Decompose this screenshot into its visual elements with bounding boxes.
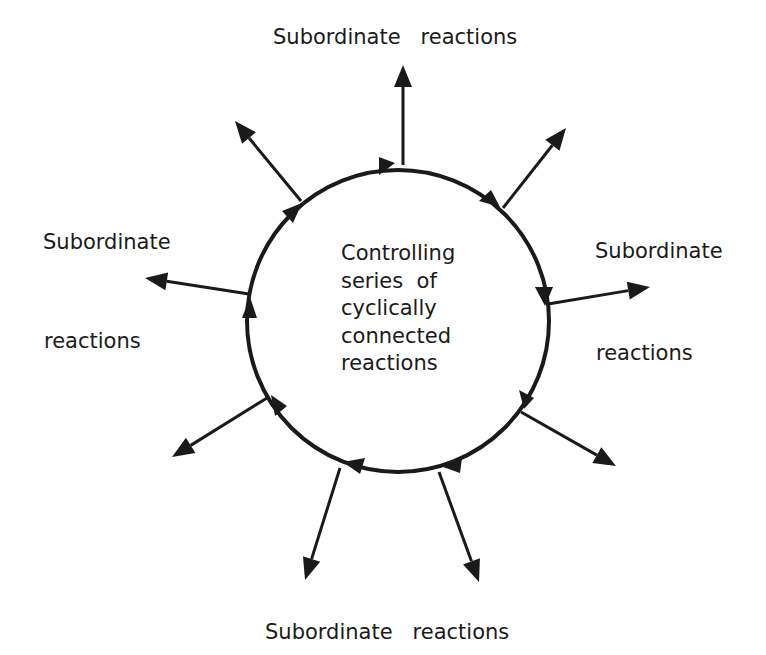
arrowhead-icon bbox=[592, 447, 616, 466]
spoke-lower-left bbox=[191, 398, 267, 445]
cycle-arrowhead-icon bbox=[479, 190, 500, 207]
center-label-line: connected bbox=[341, 323, 481, 351]
label-bottom: Subordinate reactions bbox=[265, 622, 509, 643]
cycle-arrowhead-icon bbox=[343, 458, 365, 474]
label-left-reactions: reactions bbox=[44, 331, 141, 352]
arrowhead-icon bbox=[463, 558, 480, 582]
spoke-lower-right bbox=[521, 412, 597, 455]
label-right-reactions: reactions bbox=[596, 343, 693, 364]
center-label-line: cyclically bbox=[341, 295, 481, 323]
center-label: Controlling series of cyclically connect… bbox=[341, 240, 481, 378]
label-left-subordinate: Subordinate bbox=[43, 232, 171, 253]
arrowhead-icon bbox=[545, 128, 566, 151]
spoke-upper-right bbox=[503, 145, 552, 208]
spoke-bottom-left bbox=[312, 468, 340, 559]
label-right-subordinate: Subordinate bbox=[595, 241, 723, 262]
arrowhead-icon bbox=[172, 438, 195, 457]
arrowhead-icon bbox=[627, 282, 650, 300]
center-label-line: reactions bbox=[341, 350, 481, 378]
center-label-line: Controlling bbox=[341, 240, 481, 268]
spoke-left bbox=[167, 281, 249, 294]
label-top: Subordinate reactions bbox=[273, 27, 517, 48]
arrowhead-icon bbox=[394, 65, 412, 87]
spoke-bottom-right bbox=[439, 472, 471, 561]
spoke-right bbox=[548, 291, 628, 304]
arrowhead-icon bbox=[303, 556, 320, 580]
spoke-upper-left bbox=[249, 138, 301, 201]
arrowhead-icon bbox=[145, 272, 168, 290]
center-label-line: series of bbox=[341, 268, 481, 296]
cycle-arrowhead-icon bbox=[242, 297, 257, 318]
